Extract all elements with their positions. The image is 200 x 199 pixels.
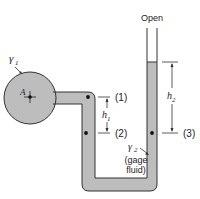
svg-text:2: 2 <box>134 146 138 154</box>
svg-text:A: A <box>19 87 26 97</box>
gage-label-line1: (gage <box>124 155 147 165</box>
point-2-label: (2) <box>115 128 127 139</box>
manometer-diagram: γ 1 A h 1 (1) (2) h 2 (3) Open <box>0 0 200 199</box>
gage-label-line2: fluid) <box>126 165 146 175</box>
svg-text:1: 1 <box>107 115 111 123</box>
point-1-label: (1) <box>115 92 127 103</box>
gamma1-label: γ 1 <box>9 52 22 74</box>
svg-text:γ: γ <box>128 141 133 152</box>
svg-text:γ: γ <box>9 52 14 64</box>
point-1-dot <box>86 95 90 99</box>
point-3-label: (3) <box>183 128 195 139</box>
point-3-dot <box>150 131 154 135</box>
open-label: Open <box>141 13 163 23</box>
gamma2-label: γ 2 <box>128 141 149 155</box>
svg-text:1: 1 <box>15 59 19 67</box>
svg-text:2: 2 <box>172 96 176 104</box>
point-2-dot <box>84 131 88 135</box>
